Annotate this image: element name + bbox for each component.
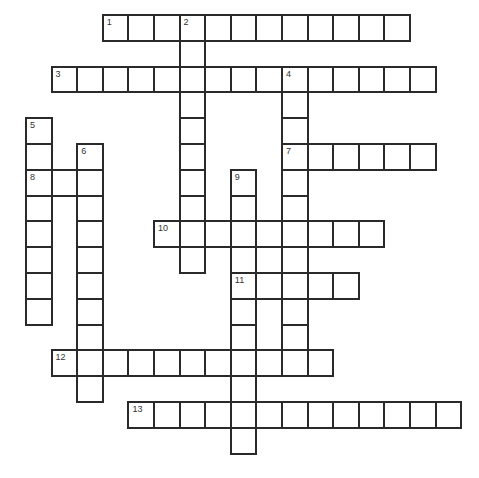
- crossword-cell[interactable]: [409, 143, 437, 171]
- crossword-cell[interactable]: [127, 14, 155, 42]
- crossword-cell[interactable]: [281, 14, 309, 42]
- crossword-cell[interactable]: [281, 401, 309, 429]
- crossword-cell[interactable]: [281, 324, 309, 352]
- crossword-cell[interactable]: [358, 401, 386, 429]
- crossword-cell[interactable]: [230, 298, 258, 326]
- crossword-cell[interactable]: [358, 143, 386, 171]
- crossword-cell[interactable]: [307, 272, 335, 300]
- crossword-cell[interactable]: [307, 401, 335, 429]
- crossword-cell[interactable]: [76, 298, 104, 326]
- crossword-cell[interactable]: [76, 272, 104, 300]
- crossword-cell[interactable]: [179, 195, 207, 223]
- crossword-cell[interactable]: [76, 246, 104, 274]
- crossword-cell[interactable]: [307, 143, 335, 171]
- crossword-cell[interactable]: [230, 220, 258, 248]
- crossword-cell[interactable]: [153, 66, 181, 94]
- crossword-cell[interactable]: [307, 349, 335, 377]
- crossword-cell[interactable]: [204, 220, 232, 248]
- crossword-cell[interactable]: [383, 143, 411, 171]
- crossword-cell[interactable]: [179, 117, 207, 145]
- crossword-cell[interactable]: 5: [25, 117, 53, 145]
- crossword-cell[interactable]: [255, 246, 283, 274]
- crossword-cell[interactable]: 7: [281, 143, 309, 171]
- crossword-cell[interactable]: [332, 14, 360, 42]
- crossword-cell[interactable]: [204, 14, 232, 42]
- crossword-cell[interactable]: [230, 246, 258, 274]
- crossword-cell[interactable]: [179, 401, 207, 429]
- crossword-cell[interactable]: 12: [51, 349, 79, 377]
- crossword-cell[interactable]: 3: [51, 66, 79, 94]
- crossword-cell[interactable]: [435, 401, 463, 429]
- crossword-cell[interactable]: [25, 220, 53, 248]
- crossword-cell[interactable]: [409, 401, 437, 429]
- crossword-cell[interactable]: [25, 298, 53, 326]
- crossword-cell[interactable]: [383, 401, 411, 429]
- crossword-cell[interactable]: 8: [25, 169, 53, 197]
- crossword-cell[interactable]: [255, 349, 283, 377]
- crossword-cell[interactable]: [102, 349, 130, 377]
- crossword-cell[interactable]: [255, 401, 283, 429]
- crossword-cell[interactable]: [307, 66, 335, 94]
- crossword-cell[interactable]: [179, 91, 207, 119]
- crossword-cell[interactable]: 1: [102, 14, 130, 42]
- crossword-cell[interactable]: [230, 349, 258, 377]
- crossword-cell[interactable]: [409, 66, 437, 94]
- crossword-cell[interactable]: [230, 401, 258, 429]
- crossword-cell[interactable]: 6: [76, 143, 104, 171]
- crossword-cell[interactable]: [281, 220, 309, 248]
- crossword-cell[interactable]: [230, 195, 258, 223]
- crossword-cell[interactable]: [281, 169, 309, 197]
- crossword-cell[interactable]: [25, 195, 53, 223]
- crossword-cell[interactable]: [332, 401, 360, 429]
- crossword-cell[interactable]: [255, 220, 283, 248]
- crossword-cell[interactable]: [179, 40, 207, 68]
- crossword-cell[interactable]: [332, 220, 360, 248]
- crossword-cell[interactable]: [230, 375, 258, 403]
- crossword-cell[interactable]: 4: [281, 66, 309, 94]
- crossword-cell[interactable]: [76, 195, 104, 223]
- crossword-cell[interactable]: [281, 298, 309, 326]
- crossword-cell[interactable]: [332, 272, 360, 300]
- crossword-cell[interactable]: [281, 195, 309, 223]
- crossword-cell[interactable]: 11: [230, 272, 258, 300]
- crossword-cell[interactable]: [307, 220, 335, 248]
- crossword-cell[interactable]: [255, 272, 283, 300]
- crossword-cell[interactable]: [332, 66, 360, 94]
- crossword-cell[interactable]: [179, 349, 207, 377]
- crossword-cell[interactable]: [76, 66, 104, 94]
- crossword-cell[interactable]: [153, 401, 181, 429]
- crossword-cell[interactable]: [204, 349, 232, 377]
- crossword-cell[interactable]: 13: [127, 401, 155, 429]
- crossword-cell[interactable]: [255, 14, 283, 42]
- crossword-cell[interactable]: [179, 66, 207, 94]
- crossword-cell[interactable]: [230, 14, 258, 42]
- crossword-cell[interactable]: [358, 220, 386, 248]
- crossword-cell[interactable]: 10: [153, 220, 181, 248]
- crossword-cell[interactable]: 2: [179, 14, 207, 42]
- crossword-cell[interactable]: [76, 220, 104, 248]
- crossword-cell[interactable]: [76, 349, 104, 377]
- crossword-cell[interactable]: [358, 14, 386, 42]
- crossword-cell[interactable]: 9: [230, 169, 258, 197]
- crossword-cell[interactable]: [281, 91, 309, 119]
- crossword-cell[interactable]: [307, 14, 335, 42]
- crossword-cell[interactable]: [51, 169, 79, 197]
- crossword-cell[interactable]: [281, 246, 309, 274]
- crossword-cell[interactable]: [230, 66, 258, 94]
- crossword-cell[interactable]: [179, 143, 207, 171]
- crossword-cell[interactable]: [25, 246, 53, 274]
- crossword-cell[interactable]: [281, 349, 309, 377]
- crossword-cell[interactable]: [127, 349, 155, 377]
- crossword-cell[interactable]: [153, 14, 181, 42]
- crossword-cell[interactable]: [383, 14, 411, 42]
- crossword-cell[interactable]: [153, 349, 181, 377]
- crossword-cell[interactable]: [281, 117, 309, 145]
- crossword-cell[interactable]: [179, 246, 207, 274]
- crossword-cell[interactable]: [204, 66, 232, 94]
- crossword-cell[interactable]: [255, 66, 283, 94]
- crossword-cell[interactable]: [179, 220, 207, 248]
- crossword-cell[interactable]: [281, 272, 309, 300]
- crossword-cell[interactable]: [230, 427, 258, 455]
- crossword-cell[interactable]: [25, 143, 53, 171]
- crossword-cell[interactable]: [179, 169, 207, 197]
